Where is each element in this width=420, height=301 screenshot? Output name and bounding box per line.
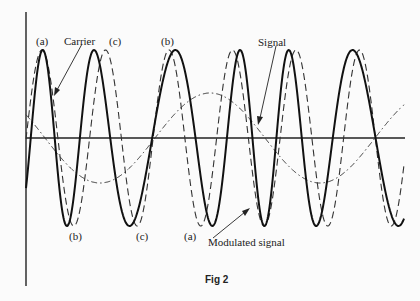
- figure-caption: Fig 2: [205, 275, 228, 285]
- carrier-arrow: [54, 44, 82, 96]
- label-modulated-signal: Modulated signal: [208, 237, 285, 248]
- signal-arrow: [257, 46, 276, 125]
- label-a-top: (a): [36, 36, 48, 47]
- label-c-top: (c): [109, 36, 121, 47]
- label-a-bottom: (a): [184, 231, 196, 242]
- label-c-bottom: (c): [136, 231, 148, 242]
- label-b-bottom: (b): [69, 231, 82, 242]
- label-carrier: Carrier: [64, 36, 95, 47]
- label-signal: Signal: [258, 37, 286, 48]
- label-b-top: (b): [161, 36, 174, 47]
- phase-modulation-figure: [0, 0, 420, 301]
